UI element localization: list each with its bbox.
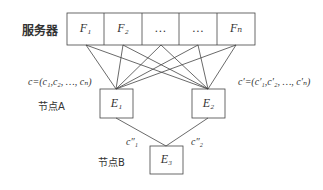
server-cell-fn: Fₙ [217,21,255,36]
node-b-label: 节点B [98,154,125,169]
c1-double-prime-label: c″₁ [126,136,138,147]
server-cell-f1: F₁ [67,21,104,36]
c-prime-vector-label: c′=(c′₁,c′₂, …, c′ₙ) [238,76,310,87]
node-e3: E₃ [150,152,183,167]
c2-double-prime-label: c″₂ [191,136,203,147]
server-cell-f2: F₂ [104,21,142,36]
server-cell-ellipsis-2: … [179,21,217,36]
c-vector-label: c=(c₁,c₂, …, cₙ) [28,76,92,87]
node-a-label: 节点A [38,98,65,113]
node-e1: E₁ [100,96,133,111]
node-e2: E₂ [192,96,225,111]
server-cell-ellipsis-1: … [142,21,179,36]
server-label: 服务器 [22,21,58,38]
